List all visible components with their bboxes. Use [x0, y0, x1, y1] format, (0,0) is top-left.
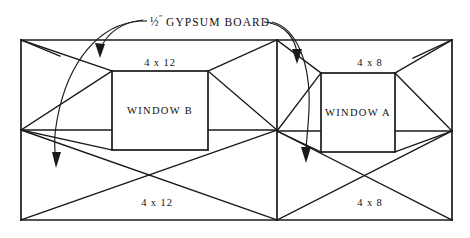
title-fraction: ½	[150, 16, 159, 28]
brace-left-mid-to-window-botleft	[21, 130, 112, 150]
brace-right-mid-to-windowA-botright	[395, 131, 452, 152]
window-label-a: WINDOW A	[325, 107, 391, 118]
brace-right-mid-to-windowA-right	[395, 73, 452, 131]
top-corner-diagonals	[21, 40, 452, 58]
diag-topright-inward	[413, 40, 452, 58]
framing-diagram: ½ ″ GYPSUM BOARD 4 x 12 4 x 8 4 x 12 4 x…	[0, 0, 470, 238]
title-inch-mark: ″	[159, 14, 163, 23]
leader-right-long-arrowhead	[301, 147, 311, 163]
leader-left-short-arrowhead	[95, 43, 105, 58]
window-label-b: WINDOW B	[127, 105, 193, 116]
dimension-label-top-left: 4 x 12	[144, 57, 176, 68]
dimension-label-bottom-left: 4 x 12	[141, 197, 173, 208]
brace-center-mid-to-window-right	[208, 71, 277, 130]
framing-diagram-canvas: ½ ″ GYPSUM BOARD 4 x 12 4 x 8 4 x 12 4 x…	[0, 0, 470, 238]
title-text: GYPSUM BOARD	[166, 16, 270, 28]
brace-right-top-to-windowA-topright	[395, 40, 452, 73]
dimension-label-bottom-right: 4 x 8	[357, 197, 383, 208]
text-labels-group: ½ ″ GYPSUM BOARD 4 x 12 4 x 8 4 x 12 4 x…	[127, 14, 391, 208]
leader-left-long-arrowhead	[52, 152, 61, 168]
brace-center-top-to-window-topright	[208, 40, 277, 71]
dimension-label-top-right: 4 x 8	[357, 57, 383, 68]
brace-center-mid-to-windowA-left	[277, 73, 321, 131]
brace-left-mid-to-window-top	[21, 71, 112, 130]
diag-topleft-inward	[21, 40, 60, 56]
